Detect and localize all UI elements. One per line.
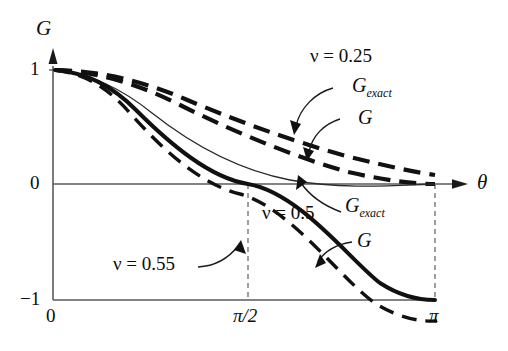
arrowhead-g-nu05 [315,254,326,268]
annotation-gexact-nu05: Gexact [345,194,385,221]
y-axis-label: G [36,16,51,41]
annotation-g-nu05: G [357,229,371,252]
y-tick-label-0: 0 [30,172,40,194]
arrowhead-gexact-nu025 [290,120,301,135]
x-tick-label-half-pi: π/2 [233,305,257,327]
annotation-g-nu025: G [358,106,372,129]
chart-figure: G θ 1 0 −1 0 π/2 π ν = 0.25 Gexact G ν =… [0,0,508,351]
annotation-gexact-nu05-base: G [345,194,359,216]
arrowhead-nu055 [234,240,246,254]
annotation-gexact-nu025-base: G [352,74,366,96]
annotation-gexact-nu025-sub: exact [366,86,391,100]
x-tick-label-0: 0 [46,305,56,327]
leader-gexact-nu025 [296,88,333,126]
y-axis-arrowhead [49,48,58,64]
y-tick-label-1: 1 [30,58,40,80]
x-axis-label: θ [477,170,487,195]
x-axis-arrowhead [452,179,468,188]
annotation-nu-05: ν = 0.5 [262,202,315,224]
annotation-nu-055: ν = 0.55 [113,253,175,275]
x-tick-label-pi: π [429,305,439,327]
annotation-gexact-nu025: Gexact [352,74,392,101]
leader-nu055 [198,246,238,267]
y-tick-label-neg1: −1 [20,288,40,310]
plot-canvas [0,0,508,351]
axis-lines [49,48,469,300]
annotation-nu-025: ν = 0.25 [310,45,372,67]
annotation-gexact-nu05-sub: exact [359,206,384,220]
curve-g-nu05 [55,70,435,300]
